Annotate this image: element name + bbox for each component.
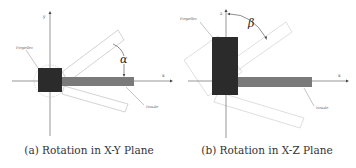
caption-b: (b) Rotation in X-Z Plane xyxy=(178,144,356,156)
caption-a: (a) Rotation in X-Y Plane xyxy=(0,144,178,156)
panel-xz-rotation: x z Propeller Nozzle β (b) Rotation in X… xyxy=(178,0,356,168)
angle-beta-label: β xyxy=(247,17,254,30)
diagram-xy: x y Propeller Nozzle α xyxy=(0,0,178,168)
panel-xy-rotation: x y Propeller Nozzle α (a) Rotation in X… xyxy=(0,0,178,168)
propeller-block xyxy=(38,68,62,92)
nozzle-label: Nozzle xyxy=(316,106,328,110)
nozzle-label: Nozzle xyxy=(146,105,158,109)
propeller-label: Propeller xyxy=(180,17,197,21)
z-axis-label: z xyxy=(220,11,223,16)
nozzle-bar xyxy=(238,77,312,87)
y-axis-arrow-icon xyxy=(49,11,52,14)
nozzle-bar xyxy=(62,77,134,86)
nozzle-leader xyxy=(304,88,314,106)
x-axis-arrow-icon xyxy=(346,80,349,83)
alpha-arrowhead-icon xyxy=(123,74,125,77)
propeller-leader xyxy=(200,22,213,38)
propeller-label: Propeller xyxy=(16,46,33,50)
angle-alpha-label: α xyxy=(120,53,128,66)
beta-arrowhead-left-icon xyxy=(227,13,230,15)
y-axis-label: y xyxy=(42,14,46,19)
rotated-nozzle-down-outline xyxy=(62,86,128,112)
z-axis-arrow-icon xyxy=(225,9,228,12)
nozzle-leader xyxy=(126,87,144,105)
rotated-nozzle-up-outline xyxy=(62,30,124,82)
diagram-xz: x z Propeller Nozzle β xyxy=(178,0,356,168)
x-axis-label: x xyxy=(162,73,165,78)
propeller-block xyxy=(212,37,238,95)
rotated-nozzle-down-outline xyxy=(214,92,304,128)
x-axis-label: x xyxy=(338,73,341,78)
propeller-leader xyxy=(26,50,38,68)
x-axis-arrow-icon xyxy=(170,80,173,83)
